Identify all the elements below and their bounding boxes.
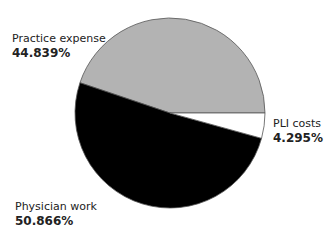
slice-label-name: Physician work	[15, 200, 97, 214]
label-practice-expense: Practice expense 44.839%	[12, 32, 106, 60]
slice-label-name: PLI costs	[273, 117, 323, 131]
slice-label-value: 4.295%	[273, 131, 323, 145]
label-pli-costs: PLI costs 4.295%	[273, 117, 323, 145]
slice-label-value: 44.839%	[12, 46, 106, 60]
slice-label-name: Practice expense	[12, 32, 106, 46]
slice-label-value: 50.866%	[15, 214, 97, 228]
label-physician-work: Physician work 50.866%	[15, 200, 97, 228]
